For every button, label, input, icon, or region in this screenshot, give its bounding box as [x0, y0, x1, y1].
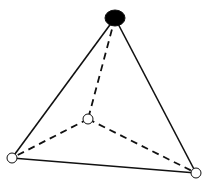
vertex-right: [191, 168, 201, 178]
vertex-left: [7, 153, 17, 163]
vertex-apex: [105, 10, 125, 26]
edge-apex-back-dashed: [88, 18, 115, 119]
edge-apex-right-solid: [115, 18, 196, 173]
tetrahedron-diagram: [0, 0, 214, 186]
vertex-back: [83, 114, 93, 124]
vertices-group: [7, 10, 201, 178]
edge-back-left-dashed: [12, 119, 88, 158]
edge-left-right-solid: [12, 158, 196, 173]
edges-group: [12, 18, 196, 173]
edge-apex-left-solid: [12, 18, 115, 158]
